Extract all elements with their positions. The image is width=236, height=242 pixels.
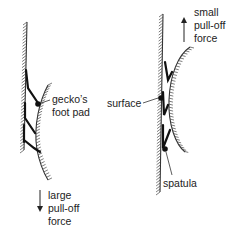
hatch-mark — [157, 162, 161, 165]
hatch-mark — [43, 167, 47, 169]
right-seta-middle — [163, 92, 168, 115]
surface-leader — [143, 98, 158, 103]
hatch-mark — [44, 170, 48, 172]
hatch-mark — [159, 35, 163, 38]
label-large-force-line3: force — [48, 215, 72, 227]
hatch-mark — [156, 171, 160, 174]
left-foot-pad — [36, 85, 48, 180]
left-seta-upper — [26, 70, 38, 103]
hatch-mark — [37, 147, 41, 149]
hatch-mark — [48, 178, 52, 180]
hatch-mark — [157, 156, 161, 159]
hatch-mark — [157, 123, 161, 126]
hatch-mark — [158, 101, 162, 104]
left-figure: gecko’s foot pad large pull-off force — [20, 22, 90, 227]
label-small-force-line2: pull-off — [194, 19, 225, 31]
hatch-mark — [159, 29, 163, 32]
hatch-mark — [171, 83, 175, 84]
hatch-mark — [156, 192, 160, 195]
hatch-mark — [158, 86, 162, 89]
hatch-mark — [36, 144, 40, 146]
hatch-mark — [188, 49, 192, 50]
hatch-mark — [169, 104, 173, 105]
hatch-mark — [41, 162, 45, 164]
hatch-mark — [157, 135, 161, 138]
hatch-mark — [158, 92, 162, 95]
hatch-mark — [156, 186, 160, 189]
hatch-mark — [158, 50, 162, 53]
hatch-mark — [175, 69, 179, 70]
hatch-mark — [157, 138, 161, 141]
hatch-mark — [169, 101, 173, 102]
hatch-mark — [36, 138, 40, 140]
label-spatula: spatula — [163, 177, 197, 189]
hatch-mark — [158, 44, 162, 47]
surface-dot — [158, 95, 164, 101]
hatch-mark — [159, 20, 163, 23]
hatch-mark — [159, 38, 163, 41]
hatch-mark — [36, 132, 40, 134]
hatch-mark — [159, 23, 163, 26]
spatula-dot — [162, 146, 168, 152]
hatch-mark — [40, 159, 44, 161]
hatch-mark — [174, 72, 178, 73]
hatch-mark — [156, 189, 160, 192]
hatch-mark — [159, 14, 163, 17]
hatch-mark — [48, 83, 52, 85]
hatch-mark — [169, 98, 173, 99]
hatch-mark — [178, 61, 182, 62]
hatch-mark — [182, 55, 186, 56]
hatch-mark — [183, 53, 187, 54]
hatch-mark — [157, 117, 161, 120]
hatch-mark — [36, 135, 40, 137]
left-pad-hatching — [36, 83, 52, 180]
hatch-mark — [185, 51, 189, 52]
spatula-leader — [166, 152, 172, 175]
hatch-mark — [158, 65, 162, 68]
hatch-mark — [173, 74, 177, 75]
hatch-mark — [156, 174, 160, 177]
hatch-mark — [157, 141, 161, 144]
hatch-mark — [157, 114, 161, 117]
hatch-mark — [157, 105, 161, 108]
hatch-mark — [20, 150, 24, 153]
hatch-mark — [38, 153, 42, 155]
hatch-mark — [176, 66, 180, 67]
hatch-mark — [156, 183, 160, 186]
hatch-mark — [46, 175, 50, 177]
hatch-mark — [190, 47, 194, 48]
hatch-mark — [158, 59, 162, 62]
hatch-mark — [42, 164, 46, 166]
hatch-mark — [169, 110, 173, 111]
label-small-force-line3: force — [194, 32, 218, 44]
hatch-mark — [156, 177, 160, 180]
right-figure: surface spatula small pull-off force — [107, 6, 225, 195]
hatch-mark — [171, 80, 175, 81]
hatch-mark — [158, 80, 162, 83]
right-foot-pad — [169, 47, 190, 152]
hatch-mark — [180, 58, 184, 59]
hatch-mark — [159, 32, 163, 35]
right-seta-lower — [163, 125, 170, 148]
hatch-mark — [157, 132, 161, 135]
left-seta-bottom — [24, 140, 40, 152]
hatch-mark — [157, 126, 161, 129]
hatch-mark — [36, 141, 40, 143]
hatch-mark — [157, 150, 161, 153]
hatch-mark — [45, 173, 49, 175]
hatch-mark — [156, 180, 160, 183]
hatch-mark — [158, 47, 162, 50]
hatch-mark — [157, 111, 161, 114]
hatch-mark — [157, 144, 161, 147]
hatch-mark — [158, 77, 162, 80]
hatch-mark — [158, 56, 162, 59]
hatch-mark — [157, 159, 161, 162]
label-surface: surface — [107, 97, 142, 109]
left-pad-leader — [41, 100, 50, 103]
label-small-force-line1: small — [194, 6, 219, 18]
label-gecko-foot-pad-line2: foot pad — [52, 106, 90, 118]
hatch-mark — [156, 165, 160, 168]
hatch-mark — [158, 89, 162, 92]
hatch-mark — [158, 83, 162, 86]
label-large-force-line1: large — [48, 189, 72, 201]
